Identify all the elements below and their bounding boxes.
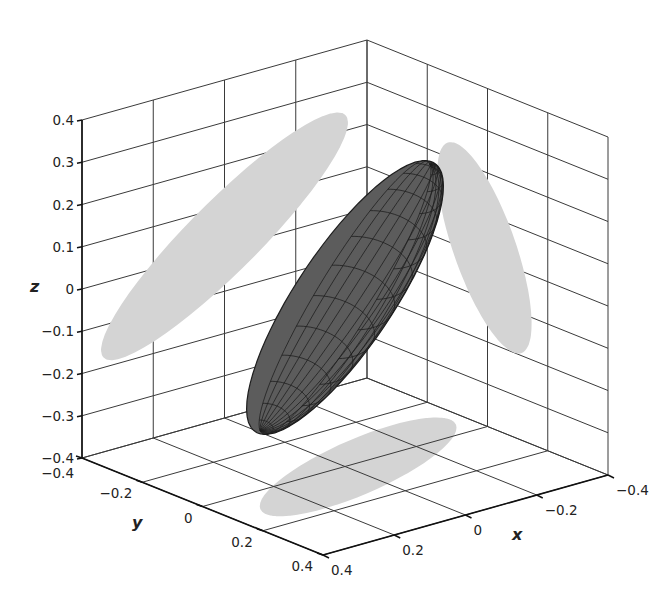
y-tick-label: 0.2 [231,534,252,550]
z-tick-label: 0 [65,281,74,297]
x-tick [537,495,543,498]
z-tick [77,162,82,163]
z-tick [77,120,82,121]
y-tick-label: 0.4 [292,558,313,574]
y-tick [136,480,142,482]
x-tick-label: 0.2 [402,542,423,558]
y-tick-label: 0 [184,510,193,526]
x-tick-label: 0.4 [331,562,352,578]
z-tick-label: 0.3 [53,154,74,170]
z-tick [77,289,82,290]
floor-grid [82,378,608,555]
x-tick-label: −0.4 [616,482,649,498]
z-tick-label: 0.1 [53,239,74,255]
x-tick [466,515,472,518]
z-tick [77,331,82,332]
x-tick-label: 0 [474,522,483,538]
y-tick [76,456,82,458]
z-tick [77,416,82,417]
y-tick [257,529,263,531]
z-axis-label: z [29,277,40,296]
ellipsoid-3d-chart: −0.4−0.3−0.2−0.100.10.20.30.4−0.4−0.200.… [0,0,669,599]
y-tick-label: −0.2 [99,485,132,501]
z-tick-label: 0.2 [53,197,74,213]
x-tick [323,555,329,558]
y-tick [317,553,323,555]
shadow-xy-floor [260,418,457,517]
z-tick-label: 0.4 [53,112,74,128]
z-tick [77,374,82,375]
shadow-xz-wall [437,142,531,353]
y-tick [197,505,203,507]
x-tick-label: −0.2 [545,502,578,518]
z-tick [77,205,82,206]
z-tick-label: −0.4 [41,450,74,466]
z-tick-label: −0.3 [41,408,74,424]
z-tick-label: −0.1 [41,323,74,339]
z-tick-label: −0.2 [41,366,74,382]
y-tick-label: −0.4 [41,465,74,481]
x-axis-label: x [511,525,523,544]
y-axis-label: y [132,513,143,532]
x-tick [394,535,400,538]
x-tick [608,475,614,478]
z-tick [77,247,82,248]
